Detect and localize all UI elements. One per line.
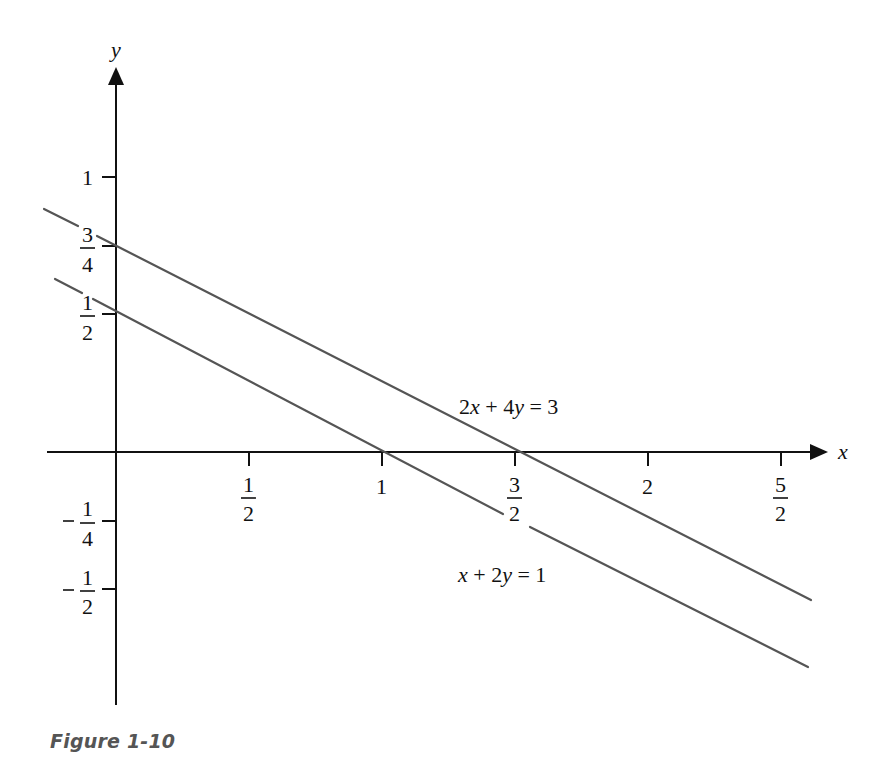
svg-text:2: 2 bbox=[82, 594, 93, 619]
svg-text:2: 2 bbox=[775, 501, 786, 526]
equation-label-upper: 2x + 4y = 3 bbox=[459, 394, 558, 419]
figure: y x 1 3 4 bbox=[0, 0, 887, 776]
y-tick-neg-1-4: 1 4 bbox=[63, 496, 95, 551]
figure-caption: Figure 1-10 bbox=[50, 730, 175, 752]
svg-text:3: 3 bbox=[82, 222, 93, 247]
svg-text:1: 1 bbox=[82, 565, 93, 590]
x-tick-3-2: 3 2 bbox=[507, 472, 522, 526]
x-tick-2: 2 bbox=[642, 474, 653, 499]
x-tick-1-2: 1 2 bbox=[241, 472, 256, 526]
svg-text:5: 5 bbox=[775, 472, 786, 497]
equation-label-lower: x + 2y = 1 bbox=[457, 562, 546, 587]
svg-text:4: 4 bbox=[82, 526, 93, 551]
line-2x-plus-4y-eq-3 bbox=[44, 209, 811, 600]
y-tick-1: 1 bbox=[82, 165, 93, 190]
line-x-plus-2y-eq-1 bbox=[55, 279, 808, 667]
svg-text:2: 2 bbox=[509, 501, 520, 526]
svg-text:4: 4 bbox=[82, 252, 93, 277]
y-axis-label: y bbox=[109, 37, 121, 62]
svg-text:2: 2 bbox=[243, 501, 254, 526]
svg-text:3: 3 bbox=[509, 472, 520, 497]
chart-canvas: y x 1 3 4 bbox=[0, 0, 887, 776]
svg-text:2: 2 bbox=[82, 320, 93, 345]
x-tick-labels: 1 2 1 3 2 2 5 2 bbox=[241, 472, 788, 526]
svg-text:1: 1 bbox=[82, 290, 93, 315]
x-tick-5-2: 5 2 bbox=[773, 472, 788, 526]
x-ticks bbox=[249, 452, 781, 466]
x-axis-label: x bbox=[837, 439, 848, 464]
y-axis-arrow-icon bbox=[108, 67, 124, 85]
x-axis-arrow-icon bbox=[810, 444, 828, 460]
x-tick-1: 1 bbox=[376, 474, 387, 499]
svg-text:1: 1 bbox=[82, 496, 93, 521]
y-tick-labels: 1 3 4 1 2 1 4 1 2 bbox=[63, 165, 95, 619]
svg-text:1: 1 bbox=[243, 472, 254, 497]
y-tick-neg-1-2: 1 2 bbox=[63, 565, 95, 619]
y-tick-3-4: 3 4 bbox=[80, 222, 95, 277]
